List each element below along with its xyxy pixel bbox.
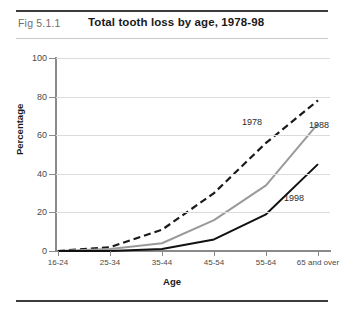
y-axis-title: Percentage xyxy=(14,104,25,155)
x-axis-tick-label: 16-24 xyxy=(48,258,68,267)
series-label-1998: 1998 xyxy=(284,193,304,203)
y-axis-tick xyxy=(49,251,55,252)
y-axis-tick-label: 20 xyxy=(37,207,47,217)
gridline xyxy=(56,212,330,213)
y-axis-tick xyxy=(49,135,55,136)
x-axis-title: Age xyxy=(163,276,181,287)
x-axis-tick-label: 65 and over xyxy=(297,258,339,267)
y-axis-tick xyxy=(49,97,55,98)
x-axis-tick xyxy=(110,251,111,256)
x-axis-tick xyxy=(266,251,267,256)
y-axis-tick xyxy=(49,174,55,175)
series-label-1988: 1988 xyxy=(309,120,329,130)
series-line-1978 xyxy=(58,100,318,251)
title-rule-top xyxy=(16,10,328,12)
x-axis-tick xyxy=(318,251,319,256)
y-axis-tick-label: 60 xyxy=(37,130,47,140)
x-axis-tick xyxy=(214,251,215,256)
x-axis-tick xyxy=(58,251,59,256)
gridline xyxy=(56,97,330,98)
y-axis-tick-label: 0 xyxy=(42,246,47,256)
series-label-1978: 1978 xyxy=(242,117,262,127)
figure-container: Fig 5.1.1 Total tooth loss by age, 1978-… xyxy=(0,0,344,313)
y-axis-tick xyxy=(49,212,55,213)
gridline xyxy=(56,58,330,59)
gridline xyxy=(56,135,330,136)
title-rule-bottom xyxy=(16,38,328,39)
figure-rule-bottom xyxy=(16,300,328,302)
x-axis-tick-label: 35-44 xyxy=(152,258,172,267)
figure-number: Fig 5.1.1 xyxy=(18,17,61,29)
y-axis-tick-label: 80 xyxy=(37,92,47,102)
gridline xyxy=(56,174,330,175)
x-axis-tick xyxy=(162,251,163,256)
x-axis-tick-label: 45-54 xyxy=(204,258,224,267)
x-axis-tick-label: 55-64 xyxy=(256,258,276,267)
plot-area: 02040608010016-2425-3435-4445-5455-6465 … xyxy=(56,58,330,251)
series-line-1988 xyxy=(58,124,318,251)
x-axis-tick-label: 25-34 xyxy=(100,258,120,267)
series-line-1998 xyxy=(58,164,318,251)
figure-title: Total tooth loss by age, 1978-98 xyxy=(88,16,264,28)
y-axis-tick xyxy=(49,58,55,59)
y-axis-tick-label: 100 xyxy=(32,53,47,63)
series-lines xyxy=(56,58,330,251)
y-axis-tick-label: 40 xyxy=(37,169,47,179)
